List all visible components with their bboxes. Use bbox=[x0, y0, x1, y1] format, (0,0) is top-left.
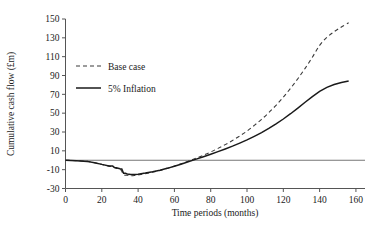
chart-figure: -30-101030507090110130150 02040608010012… bbox=[0, 0, 374, 237]
x-tick-label: 120 bbox=[276, 195, 291, 205]
x-tick-label: 60 bbox=[170, 195, 180, 205]
x-tick-label: 160 bbox=[349, 195, 364, 205]
legend-label-5-percent-inflation: 5% Inflation bbox=[108, 84, 156, 94]
x-tick-label: 100 bbox=[240, 195, 255, 205]
cumulative-cash-flow-line-chart: -30-101030507090110130150 02040608010012… bbox=[0, 0, 374, 237]
y-tick-label: 70 bbox=[50, 90, 60, 100]
y-tick-label: 30 bbox=[50, 127, 60, 137]
legend-label-base-case: Base case bbox=[108, 62, 145, 72]
y-tick-label: 110 bbox=[46, 52, 60, 62]
y-tick-label: -10 bbox=[47, 165, 60, 175]
x-tick-label: 40 bbox=[133, 195, 143, 205]
y-tick-label: 50 bbox=[50, 108, 60, 118]
x-tick-label: 20 bbox=[97, 195, 107, 205]
x-tick-label: 0 bbox=[63, 195, 68, 205]
x-tick-label: 80 bbox=[206, 195, 216, 205]
y-tick-label: -30 bbox=[47, 184, 60, 194]
y-tick-label: 130 bbox=[45, 33, 60, 43]
x-tick-label: 140 bbox=[312, 195, 327, 205]
y-tick-label: 90 bbox=[50, 71, 60, 81]
y-tick-label: 150 bbox=[45, 14, 60, 24]
y-tick-label: 10 bbox=[50, 146, 60, 156]
x-axis-title: Time periods (months) bbox=[172, 208, 259, 219]
y-axis-title: Cumulative cash flow (£m) bbox=[6, 52, 17, 156]
